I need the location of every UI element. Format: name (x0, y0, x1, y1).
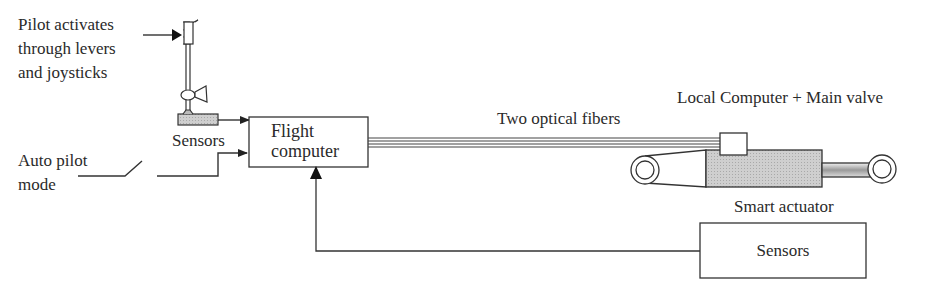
autopilot-switch (78, 153, 247, 176)
sensors-top-label: Sensors (172, 130, 225, 152)
autopilot-label-line1: Auto pilot (18, 150, 87, 172)
optical-fibers (368, 138, 720, 147)
pilot-label-line3: and joysticks (18, 62, 107, 84)
optical-fibers-label: Two optical fibers (497, 108, 620, 130)
pilot-arrow (143, 29, 182, 41)
pilot-label-line1: Pilot activates (18, 14, 114, 36)
local-computer-box (720, 133, 747, 155)
smart-actuator-label: Smart actuator (734, 196, 834, 218)
local-computer-label: Local Computer + Main valve (677, 87, 883, 109)
flight-computer-label-line1: Flight (249, 121, 368, 141)
pilot-label-line2: through levers (18, 38, 116, 60)
autopilot-label-line2: mode (18, 174, 56, 196)
joystick-icon (178, 20, 218, 125)
flight-computer-label: Flight computer (249, 121, 368, 161)
flight-computer-label-line2: computer (249, 141, 368, 161)
sensors-bottom-label: Sensors (700, 240, 866, 262)
